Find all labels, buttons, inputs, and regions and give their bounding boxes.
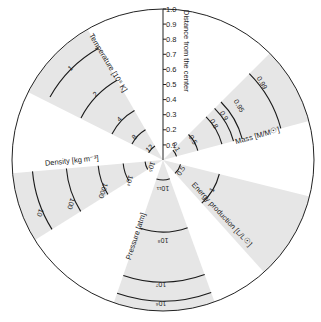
axis-tick-1.0: 1.0: [166, 5, 176, 14]
axis-tick-0.2: 0.2: [166, 125, 176, 134]
axis-tick-0.4: 0.4: [166, 95, 176, 104]
axis-tick-0.7: 0.7: [166, 50, 176, 59]
pressure-label-10e8: 10⁸: [158, 237, 169, 244]
axis-tick-0.3: 0.3: [166, 110, 176, 119]
axis-tick-0.5: 0.5: [166, 80, 176, 89]
pressure-label-10e6: 10⁶: [156, 300, 167, 307]
pressure-label-10e7: 10⁷: [155, 281, 166, 288]
axis-tick-0.6: 0.6: [166, 65, 176, 74]
axis-tick-0.1: 0.1: [166, 141, 176, 150]
density-title: Density [kg m⁻³]: [44, 153, 99, 168]
pressure-label-10e11: 10¹¹: [156, 185, 169, 192]
axis-title: Distance from the center: [182, 10, 191, 92]
temperature-wedge: 1 2 4 8 12 Temperature [10⁶ K]: [28, 30, 163, 160]
axis-tick-0.9: 0.9: [166, 20, 176, 29]
solar-interior-diagram: 1 2 4 8 12 Temperature [10⁶ K] 10 100 10…: [0, 0, 321, 322]
axis-tick-0.8: 0.8: [166, 35, 176, 44]
